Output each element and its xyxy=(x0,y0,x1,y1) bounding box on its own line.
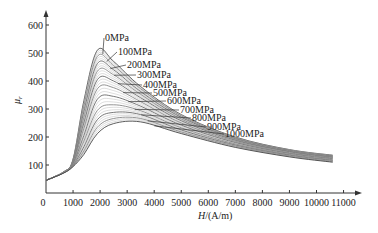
y-tick-label: 500 xyxy=(28,48,43,59)
x-tick-label: 6000 xyxy=(198,197,218,208)
y-tick-label: 300 xyxy=(28,104,43,115)
x-tick-label: 4000 xyxy=(144,197,164,208)
series-labels: 0MPa100MPa200MPa300MPa400MPa500MPa600MPa… xyxy=(103,32,265,139)
x-tick-label: 10000 xyxy=(304,197,329,208)
y-tick-label: 200 xyxy=(28,132,43,143)
series-label-100MPa: 100MPa xyxy=(118,46,152,57)
curve-fill-line xyxy=(46,50,333,180)
chart: 100200300400500600 010002000300040005000… xyxy=(0,0,378,233)
x-tick-label: 0 xyxy=(41,197,46,208)
series-label-0MPa: 0MPa xyxy=(105,32,129,43)
x-axis-arrow-icon xyxy=(355,191,362,196)
y-axis-arrow-icon xyxy=(44,10,49,17)
y-tick-label: 100 xyxy=(28,160,43,171)
x-axis-title-unit: /(A/m) xyxy=(205,210,232,222)
curve-fill-line xyxy=(46,107,333,180)
y-axis-title: μr xyxy=(11,96,24,105)
y-tick-label: 600 xyxy=(28,20,43,31)
x-tick-label: 2000 xyxy=(90,197,110,208)
series-label-1000MPa: 1000MPa xyxy=(225,128,264,139)
x-tick-label: 3000 xyxy=(117,197,137,208)
x-tick-label: 8000 xyxy=(252,197,272,208)
x-tick-label: 11000 xyxy=(331,197,356,208)
x-tick-label: 9000 xyxy=(279,197,299,208)
x-tick-label: 1000 xyxy=(63,197,83,208)
x-tick-label: 7000 xyxy=(225,197,245,208)
y-axis-subscript: r xyxy=(16,96,24,99)
x-tick-label: 5000 xyxy=(171,197,191,208)
x-axis-title: H/(A/m) xyxy=(197,210,232,222)
y-tick-label: 400 xyxy=(28,76,43,87)
